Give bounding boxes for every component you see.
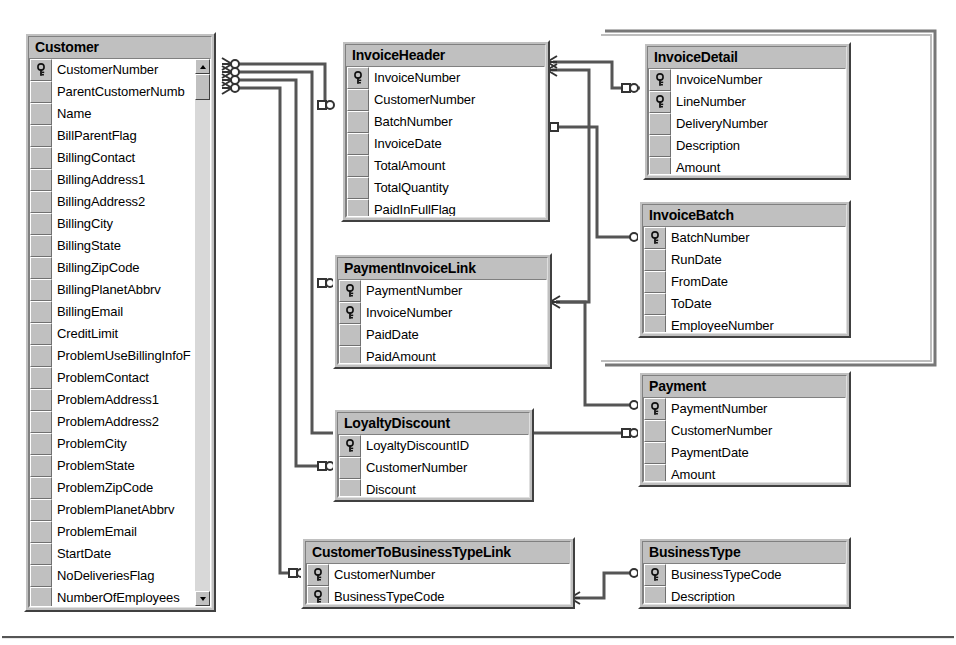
entity-table-invoicebatch[interactable]: InvoiceBatchBatchNumberRunDateFromDateTo…: [638, 200, 851, 338]
primary-key-cell[interactable]: [307, 564, 329, 586]
field-marker-cell[interactable]: [30, 191, 52, 213]
field-marker-cell[interactable]: [347, 111, 369, 133]
field-marker-cell[interactable]: [649, 135, 671, 157]
field-name[interactable]: CustomerNumber: [666, 420, 845, 442]
field-marker-cell[interactable]: [30, 81, 52, 103]
primary-key-cell[interactable]: [307, 586, 329, 604]
field-name[interactable]: LoyaltyDiscountID: [361, 435, 528, 457]
scrollbar-thumb[interactable]: [195, 74, 210, 100]
field-name[interactable]: CreditLimit: [52, 323, 195, 345]
field-name[interactable]: RunDate: [666, 249, 845, 271]
field-name[interactable]: CustomerNumber: [52, 59, 195, 81]
field-marker-cell[interactable]: [30, 257, 52, 279]
field-name[interactable]: ProblemState: [52, 455, 195, 477]
field-name[interactable]: ToDate: [666, 293, 845, 315]
field-marker-cell[interactable]: [347, 199, 369, 217]
field-name[interactable]: StartDate: [52, 543, 195, 565]
field-name[interactable]: Description: [666, 586, 845, 603]
primary-key-cell[interactable]: [339, 280, 361, 302]
field-name[interactable]: ProblemZipCode: [52, 477, 195, 499]
field-marker-cell[interactable]: [30, 367, 52, 389]
field-name[interactable]: CustomerNumber: [361, 457, 528, 479]
field-marker-cell[interactable]: [30, 499, 52, 521]
field-name[interactable]: BillingState: [52, 235, 195, 257]
field-marker-cell[interactable]: [644, 420, 666, 442]
field-name[interactable]: Amount: [666, 464, 845, 481]
entity-table-customertobusinesstypelink[interactable]: CustomerToBusinessTypeLinkCustomerNumber…: [301, 537, 575, 609]
field-marker-cell[interactable]: [30, 433, 52, 455]
field-name[interactable]: BillParentFlag: [52, 125, 195, 147]
entity-table-invoicedetail[interactable]: InvoiceDetailInvoiceNumberLineNumberDeli…: [643, 42, 851, 180]
scroll-down-arrow-icon[interactable]: [195, 591, 210, 606]
field-name[interactable]: Description: [671, 135, 845, 157]
field-name[interactable]: FromDate: [666, 271, 845, 293]
primary-key-cell[interactable]: [649, 69, 671, 91]
field-name[interactable]: InvoiceDate: [369, 133, 544, 155]
field-name[interactable]: PaidInFullFlag: [369, 199, 544, 216]
field-name[interactable]: ProblemAddress2: [52, 411, 195, 433]
field-marker-cell[interactable]: [347, 155, 369, 177]
field-marker-cell[interactable]: [339, 479, 361, 497]
field-name[interactable]: InvoiceNumber: [671, 69, 845, 91]
field-name[interactable]: TotalAmount: [369, 155, 544, 177]
field-marker-cell[interactable]: [30, 169, 52, 191]
field-name[interactable]: Amount: [671, 157, 845, 174]
field-name[interactable]: Name: [52, 103, 195, 125]
entity-table-paymentinvoicelink[interactable]: PaymentInvoiceLinkPaymentNumberInvoiceNu…: [333, 253, 552, 369]
field-name[interactable]: Discount: [361, 479, 528, 496]
field-marker-cell[interactable]: [30, 521, 52, 543]
field-name[interactable]: PaymentNumber: [361, 280, 546, 302]
field-name[interactable]: ProblemContact: [52, 367, 195, 389]
field-marker-cell[interactable]: [644, 293, 666, 315]
field-marker-cell[interactable]: [30, 477, 52, 499]
field-marker-cell[interactable]: [30, 323, 52, 345]
primary-key-cell[interactable]: [644, 564, 666, 586]
field-marker-cell[interactable]: [644, 271, 666, 293]
field-name[interactable]: TotalQuantity: [369, 177, 544, 199]
scrollbar-track[interactable]: [195, 100, 210, 591]
field-marker-cell[interactable]: [644, 586, 666, 604]
field-name[interactable]: InvoiceNumber: [361, 302, 546, 324]
field-marker-cell[interactable]: [339, 324, 361, 346]
field-name[interactable]: PaymentNumber: [666, 398, 845, 420]
field-name[interactable]: PaidDate: [361, 324, 546, 346]
field-marker-cell[interactable]: [644, 442, 666, 464]
entity-table-payment[interactable]: PaymentPaymentNumberCustomerNumberPaymen…: [638, 371, 851, 487]
field-marker-cell[interactable]: [347, 89, 369, 111]
entity-table-customer[interactable]: CustomerCustomerNumberParentCustomerNumb…: [24, 32, 216, 612]
primary-key-cell[interactable]: [347, 67, 369, 89]
field-marker-cell[interactable]: [30, 565, 52, 587]
scroll-up-arrow-icon[interactable]: [195, 59, 210, 74]
field-name[interactable]: BillingContact: [52, 147, 195, 169]
field-marker-cell[interactable]: [30, 455, 52, 477]
field-marker-cell[interactable]: [30, 125, 52, 147]
field-marker-cell[interactable]: [649, 113, 671, 135]
field-name[interactable]: BatchNumber: [369, 111, 544, 133]
field-name[interactable]: BillingPlanetAbbrv: [52, 279, 195, 301]
field-name[interactable]: BillingAddress2: [52, 191, 195, 213]
field-name[interactable]: NoDeliveriesFlag: [52, 565, 195, 587]
field-marker-cell[interactable]: [30, 103, 52, 125]
field-marker-cell[interactable]: [644, 464, 666, 482]
field-marker-cell[interactable]: [30, 543, 52, 565]
vertical-scrollbar[interactable]: [195, 59, 210, 606]
field-marker-cell[interactable]: [347, 133, 369, 155]
field-marker-cell[interactable]: [30, 235, 52, 257]
field-marker-cell[interactable]: [30, 587, 52, 607]
field-marker-cell[interactable]: [347, 177, 369, 199]
primary-key-cell[interactable]: [644, 227, 666, 249]
entity-table-businesstype[interactable]: BusinessTypeBusinessTypeCodeDescription: [638, 537, 851, 609]
field-name[interactable]: PaidAmount: [361, 346, 546, 363]
field-name[interactable]: ProblemEmail: [52, 521, 195, 543]
field-marker-cell[interactable]: [30, 301, 52, 323]
field-name[interactable]: BusinessTypeCode: [666, 564, 845, 586]
field-marker-cell[interactable]: [30, 279, 52, 301]
entity-table-invoiceheader[interactable]: InvoiceHeaderInvoiceNumberCustomerNumber…: [341, 40, 550, 222]
primary-key-cell[interactable]: [339, 302, 361, 324]
field-name[interactable]: ProblemAddress1: [52, 389, 195, 411]
field-marker-cell[interactable]: [649, 157, 671, 175]
field-marker-cell[interactable]: [30, 345, 52, 367]
field-name[interactable]: BillingAddress1: [52, 169, 195, 191]
primary-key-cell[interactable]: [649, 91, 671, 113]
field-name[interactable]: BillingCity: [52, 213, 195, 235]
